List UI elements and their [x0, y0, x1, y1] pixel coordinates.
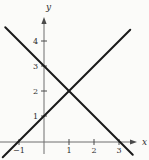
y-tick-label: 3 [33, 62, 38, 71]
x-tick-label: 1 [66, 146, 71, 155]
x-axis-arrow-icon [130, 139, 137, 144]
y-axis-label: y [45, 2, 52, 12]
x-axis-label: x [142, 137, 147, 147]
x-tick-label: −1 [13, 146, 25, 155]
x-tick-label: 3 [116, 146, 121, 155]
line-graph-svg: xy−11231234 [0, 0, 149, 160]
y-tick-label: 2 [33, 87, 38, 96]
x-tick-label: 2 [91, 146, 96, 155]
graph-figure: xy−11231234 [0, 0, 149, 160]
y-axis-arrow-icon [41, 17, 46, 24]
y-tick-label: 4 [33, 37, 38, 46]
line-rising [3, 30, 131, 158]
y-tick-label: 1 [33, 112, 38, 121]
